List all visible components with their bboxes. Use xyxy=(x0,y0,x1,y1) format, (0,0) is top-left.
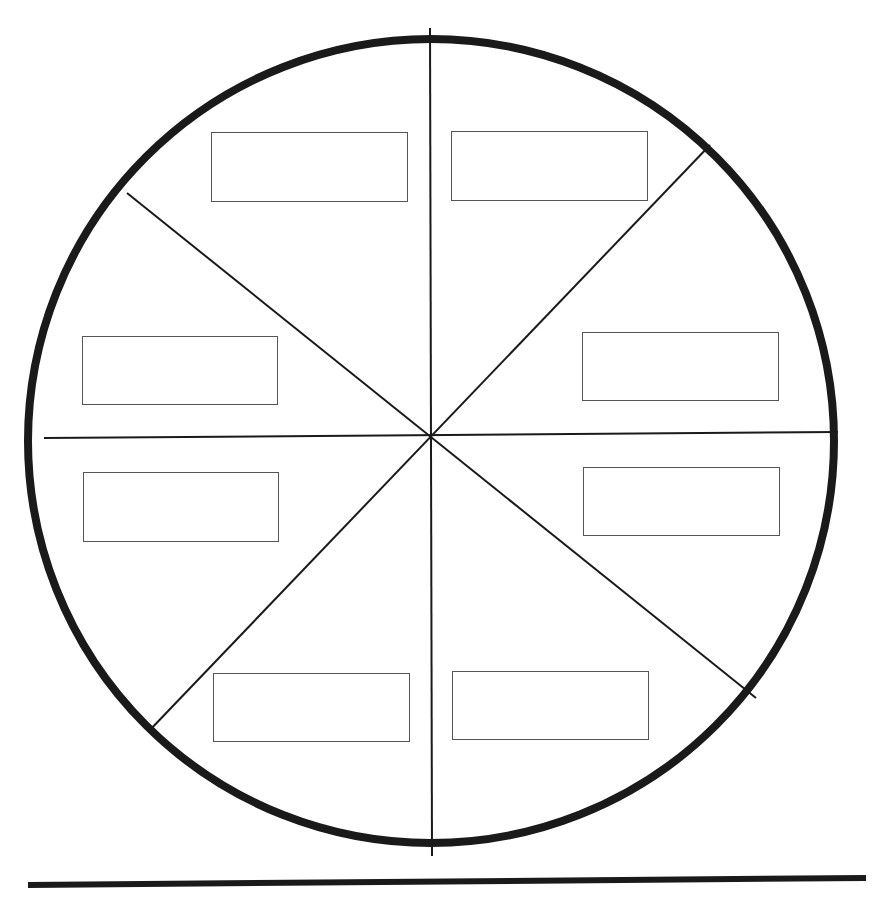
spoke-vertical xyxy=(430,28,432,856)
sector-wheel-diagram xyxy=(0,0,887,907)
label-box-top-right[interactable] xyxy=(451,131,648,201)
spoke-lines xyxy=(44,28,838,856)
label-box-lower-right[interactable] xyxy=(583,467,780,536)
label-box-top-left[interactable] xyxy=(211,132,408,202)
label-box-bottom-right[interactable] xyxy=(452,671,649,740)
spoke-diag-ul-lr xyxy=(127,193,756,698)
spoke-diag-ur-ll xyxy=(148,145,710,732)
label-box-bottom-left[interactable] xyxy=(213,673,410,742)
spoke-horizontal xyxy=(44,432,838,438)
label-box-upper-left[interactable] xyxy=(82,336,278,405)
ground-line xyxy=(28,878,866,885)
label-box-lower-left[interactable] xyxy=(83,472,279,542)
label-box-upper-right[interactable] xyxy=(582,332,779,401)
